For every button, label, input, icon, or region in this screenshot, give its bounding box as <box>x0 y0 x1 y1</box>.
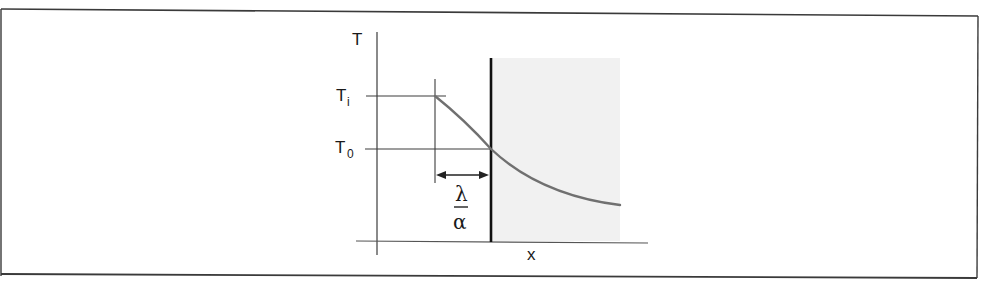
frame-border <box>1 9 978 278</box>
x-axis-label: x <box>527 245 536 264</box>
lambda-over-alpha-label: λ α <box>453 182 468 234</box>
x-axis <box>356 241 648 243</box>
ti-label: T i <box>336 86 350 109</box>
svg-text:α: α <box>453 210 467 234</box>
svg-text:λ: λ <box>455 182 468 206</box>
svg-text:T: T <box>335 138 345 157</box>
svg-text:i: i <box>347 95 350 109</box>
t-axis-label: T <box>352 30 362 49</box>
svg-text:T: T <box>336 86 346 105</box>
svg-text:0: 0 <box>347 147 354 161</box>
temperature-diagram: T T i T 0 λ α x <box>0 0 986 289</box>
solid-region-shade <box>491 58 620 241</box>
dimension-arrow <box>436 171 489 179</box>
t0-label: T 0 <box>335 138 354 161</box>
